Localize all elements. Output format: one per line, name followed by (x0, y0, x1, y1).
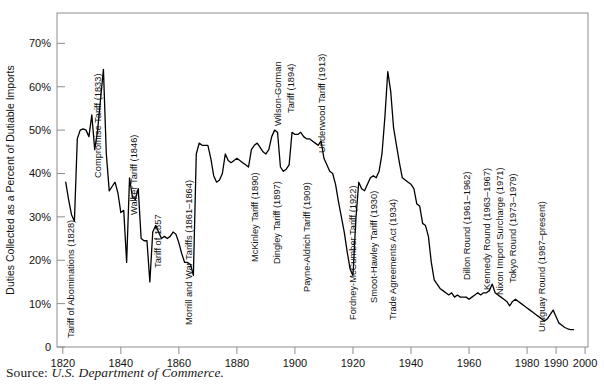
x-tick-label: 1980 (515, 357, 539, 369)
y-tick-label: 10% (29, 298, 51, 310)
y-tick-label: 30% (29, 211, 51, 223)
annotation-nixon-import-surcharge: Nixon Import Surcharge (1971) (495, 167, 505, 295)
annotation-dillon-round: Dillon Round (1961–1962) (462, 171, 472, 280)
y-tick-label: 60% (29, 81, 51, 93)
source-text: U.S. Department of Commerce. (51, 365, 224, 380)
annotation-smoot-hawley-tariff: Smoot-Hawley Tariff (1930) (369, 191, 379, 303)
annotation-uruguay-round: Uruguay Round (1987–present) (537, 201, 547, 332)
x-tick-label: 1940 (399, 357, 423, 369)
annotation-walker-tariff: Walker Tariff (1846) (129, 135, 139, 215)
annotation-underwood-tariff: Underwood Tariff (1913) (317, 54, 327, 153)
x-tick-label: 1990 (544, 357, 568, 369)
x-tick-label: 1880 (225, 357, 249, 369)
y-tick-label: 70% (29, 37, 51, 49)
annotation-mckinley-tariff: McKinley Tariff (1890) (250, 172, 260, 262)
y-tick-label: 0 (45, 341, 51, 353)
source-note: Source: U.S. Department of Commerce. (6, 365, 224, 381)
annotation-wilson-gorman-tariff-line2: Tariff (1894) (286, 64, 296, 113)
annotation-tariff-of-1857: Tariff of 1857 (153, 214, 163, 268)
annotation-morrill-and-war-tariffs: Morrill and War Tariffs (1861–1864) (184, 180, 194, 325)
tariff-chart-figure: 010%20%30%40%50%60%70% 18201840186018801… (0, 0, 604, 387)
annotation-wilson-gorman-tariff-line1: Wilson-Gorman (273, 61, 283, 126)
annotation-tokyo-round: Tokyo Round (1973–1979) (508, 173, 518, 283)
x-tick-label: 1960 (457, 357, 481, 369)
x-tick-label: 1920 (341, 357, 365, 369)
y-axis-ticks: 010%20%30%40%50%60%70% (29, 37, 65, 353)
annotation-payne-aldrich-tariff: Payne-Aldrich Tariff (1909) (302, 182, 312, 292)
annotation-fordney-mccumber-tariff: Fordney-McCumber Tariff (1922) (348, 185, 358, 320)
y-axis-title: Duties Collected as a Percent of Dutiabl… (4, 65, 16, 294)
annotation-tariff-of-abominations: Tariff of Abominations (1828) (66, 220, 76, 338)
y-tick-label: 20% (29, 254, 51, 266)
y-tick-label: 40% (29, 167, 51, 179)
annotation-trade-agreements-act: Trade Agreements Act (1934) (388, 199, 398, 320)
chart-canvas: 010%20%30%40%50%60%70% 18201840186018801… (0, 0, 604, 387)
annotation-compromise-tariff: Compromise Tariff (1833) (93, 73, 103, 178)
annotation-dingley-tariff: Dingley Tariff (1897) (272, 181, 282, 264)
annotation-kennedy-round: Kennedy Round (1963–1967) (482, 168, 492, 290)
source-prefix: Source: (6, 365, 48, 380)
y-tick-label: 50% (29, 124, 51, 136)
x-tick-label: 2000 (573, 357, 597, 369)
x-tick-label: 1900 (283, 357, 307, 369)
